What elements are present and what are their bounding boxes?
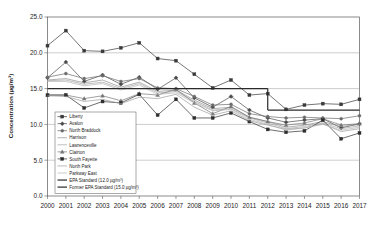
x-tick-label: 2017 bbox=[352, 202, 367, 209]
legend-label: Clairton bbox=[69, 150, 85, 155]
data-point-marker bbox=[193, 116, 196, 119]
data-point-marker bbox=[321, 102, 324, 105]
data-point-marker bbox=[358, 114, 361, 117]
x-tick-label: 2006 bbox=[151, 202, 166, 209]
data-point-marker bbox=[101, 74, 104, 77]
data-point-marker bbox=[156, 57, 159, 60]
data-point-marker bbox=[230, 111, 233, 114]
data-point-marker bbox=[61, 157, 64, 160]
data-point-marker bbox=[303, 129, 306, 132]
legend-label: Parkway East bbox=[69, 171, 97, 176]
data-point-marker bbox=[119, 80, 122, 83]
x-tick-label: 2003 bbox=[95, 202, 110, 209]
x-tick-label: 2012 bbox=[261, 202, 276, 209]
x-tick-label: 2004 bbox=[114, 202, 129, 209]
data-point-marker bbox=[321, 119, 324, 122]
x-tick-label: 2014 bbox=[297, 202, 312, 209]
y-tick-label: 15.0 bbox=[30, 85, 43, 92]
data-point-marker bbox=[266, 128, 269, 131]
legend-label: EPA Standard (12.0 µg/m³) bbox=[69, 178, 123, 183]
y-axis-title: Concentration (µg/m³) bbox=[7, 74, 14, 138]
data-point-marker bbox=[138, 77, 141, 80]
x-tick-label: 2007 bbox=[169, 202, 184, 209]
data-point-marker bbox=[358, 131, 361, 134]
x-tick-label: 2008 bbox=[187, 202, 202, 209]
y-axis-ticks: 0.05.010.015.020.025.0 bbox=[30, 13, 47, 199]
data-point-marker bbox=[303, 104, 306, 107]
x-tick-label: 2016 bbox=[334, 202, 349, 209]
pm25-trend-line-chart: 0.05.010.015.020.025.0 20002001200220032… bbox=[0, 0, 372, 225]
data-point-marker bbox=[61, 129, 64, 132]
data-point-marker bbox=[193, 73, 196, 76]
data-point-marker bbox=[193, 95, 196, 98]
y-tick-label: 10.0 bbox=[30, 121, 43, 128]
data-point-marker bbox=[285, 131, 288, 134]
x-tick-label: 2000 bbox=[40, 202, 55, 209]
data-point-marker bbox=[138, 93, 141, 96]
data-point-marker bbox=[266, 115, 269, 118]
svg-text:Concentration (µg/m³): Concentration (µg/m³) bbox=[7, 74, 14, 138]
x-tick-label: 2011 bbox=[243, 202, 257, 209]
y-tick-label: 5.0 bbox=[34, 157, 43, 164]
legend-label: Avalon bbox=[69, 121, 83, 126]
data-point-marker bbox=[64, 29, 67, 32]
data-point-marker bbox=[285, 116, 288, 119]
legend-label: Harrison bbox=[69, 135, 87, 140]
data-point-marker bbox=[340, 103, 343, 106]
x-tick-label: 2009 bbox=[206, 202, 221, 209]
data-point-marker bbox=[303, 116, 306, 119]
data-point-marker bbox=[83, 77, 86, 80]
x-tick-label: 2002 bbox=[77, 202, 92, 209]
y-tick-label: 0.0 bbox=[34, 192, 43, 199]
data-point-marker bbox=[101, 100, 104, 103]
data-point-marker bbox=[358, 98, 361, 101]
data-point-marker bbox=[138, 41, 141, 44]
legend-label: Former EPA Standard (15.0 µg/m³) bbox=[69, 185, 139, 190]
legend-item[interactable]: Former EPA Standard (15.0 µg/m³) bbox=[58, 185, 140, 190]
x-tick-label: 2013 bbox=[279, 202, 294, 209]
data-point-marker bbox=[230, 79, 233, 82]
data-point-marker bbox=[83, 106, 86, 109]
legend-label: South Fayette bbox=[69, 157, 98, 162]
data-point-marker bbox=[340, 117, 343, 120]
y-tick-label: 25.0 bbox=[30, 13, 43, 20]
data-point-marker bbox=[211, 104, 214, 107]
data-point-marker bbox=[83, 49, 86, 52]
data-point-marker bbox=[340, 137, 343, 140]
y-tick-label: 20.0 bbox=[30, 49, 43, 56]
data-point-marker bbox=[46, 44, 49, 47]
data-point-marker bbox=[101, 50, 104, 53]
data-point-marker bbox=[46, 76, 49, 79]
legend-label: North Park bbox=[69, 164, 91, 169]
x-tick-label: 2005 bbox=[132, 202, 147, 209]
chart-legend: LibertyAvalonNorth BraddockHarrisonLawre… bbox=[55, 112, 139, 194]
data-point-marker bbox=[156, 114, 159, 117]
data-point-marker bbox=[248, 112, 251, 115]
legend-label: North Braddock bbox=[69, 128, 101, 133]
data-point-marker bbox=[64, 72, 67, 75]
data-point-marker bbox=[211, 116, 214, 119]
legend-label: Liberty bbox=[69, 114, 83, 119]
x-tick-label: 2015 bbox=[316, 202, 331, 209]
data-point-marker bbox=[174, 59, 177, 62]
x-axis-ticks: 2000200120022003200420052006200720082009… bbox=[40, 196, 367, 209]
x-tick-label: 2001 bbox=[59, 202, 74, 209]
data-point-marker bbox=[174, 98, 177, 101]
data-point-marker bbox=[248, 94, 251, 97]
data-point-marker bbox=[61, 115, 64, 118]
legend-label: Lawrenceville bbox=[69, 143, 97, 148]
chart-container: 0.05.010.015.020.025.0 20002001200220032… bbox=[0, 0, 372, 225]
x-tick-label: 2010 bbox=[224, 202, 239, 209]
data-point-marker bbox=[119, 46, 122, 49]
